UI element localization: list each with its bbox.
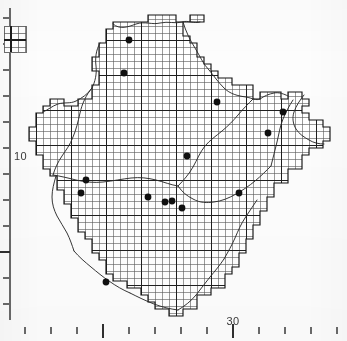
record-dot xyxy=(169,198,176,205)
record-dot xyxy=(162,199,169,206)
record-dot xyxy=(280,109,287,116)
record-dot xyxy=(126,37,133,44)
record-dot xyxy=(184,153,191,160)
x-axis-ticks xyxy=(25,324,337,338)
map-canvas: 10 30 xyxy=(0,0,347,341)
record-dot xyxy=(214,99,221,106)
record-dot xyxy=(78,190,85,197)
y-axis-tick-label: 10 xyxy=(14,150,27,162)
distribution-map-figure: 10 30 xyxy=(0,0,347,341)
y-axis-ticks xyxy=(0,18,10,304)
record-dot xyxy=(145,194,152,201)
record-dot xyxy=(265,130,272,137)
sampling-grid xyxy=(0,0,347,341)
record-dot xyxy=(103,279,110,286)
record-dot xyxy=(179,205,186,212)
scale-key-border xyxy=(4,26,26,52)
record-dot xyxy=(236,190,243,197)
map-body xyxy=(0,0,347,341)
scale-key-box xyxy=(4,26,26,52)
record-dot xyxy=(121,70,128,77)
record-dot xyxy=(83,177,90,184)
x-axis-tick-label: 30 xyxy=(226,315,239,327)
